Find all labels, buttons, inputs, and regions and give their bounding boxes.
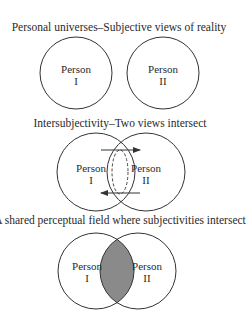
panel-intersubjectivity: Intersubjectivity–Two views intersect Pe…	[34, 117, 208, 211]
person-two-numeral: II	[142, 174, 150, 186]
person-one-numeral: I	[89, 174, 93, 186]
panel-title: Intersubjectivity–Two views intersect	[34, 117, 208, 130]
panel-shared-perceptual-field: A shared perceptual field where subjecti…	[0, 214, 247, 309]
person-two-numeral: II	[143, 272, 151, 284]
diagram-canvas: Personal universes–Subjective views of r…	[0, 0, 252, 325]
person-two-label: Person	[148, 63, 178, 75]
panel-personal-universes: Personal universes–Subjective views of r…	[12, 21, 227, 109]
panel-title: A shared perceptual field where subjecti…	[0, 214, 247, 227]
person-one-label: Person	[72, 260, 102, 272]
panel-title: Personal universes–Subjective views of r…	[12, 21, 227, 34]
dashed-overlap-ellipse	[112, 150, 128, 194]
person-two-label: Person	[131, 162, 161, 174]
person-two-label: Person	[132, 260, 162, 272]
person-one-label: Person	[76, 162, 106, 174]
person-one-label: Person	[61, 63, 91, 75]
person-one-numeral: I	[74, 75, 78, 87]
person-one-numeral: I	[85, 272, 89, 284]
person-two-numeral: II	[159, 75, 167, 87]
